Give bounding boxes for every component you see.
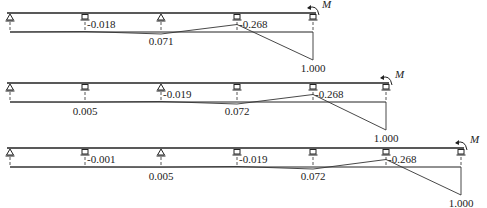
moment-value-label: 0.072 [301,170,326,182]
roller-support-icon [233,85,242,103]
moment-value-label: -0.268 [239,18,268,30]
roller-support-icon [457,150,466,168]
moment-label: M [469,133,480,145]
pin-support-icon [6,149,15,167]
pin-support-icon [157,149,166,167]
moment-value-label: -0.019 [239,153,268,165]
beam-4-span: 0.005-0.0190.072-0.2681.000M [6,68,406,144]
moment-distribution-diagrams: -0.0180.071-0.2681.000M0.005-0.0190.072-… [0,0,487,208]
moment-value-label: -0.019 [163,88,192,100]
pin-support-icon [6,14,15,32]
beam-3-span: -0.0180.071-0.2681.000M [6,0,333,74]
moment-value-label: 0.071 [149,35,174,47]
roller-support-icon [81,85,90,103]
moment-value-label: 1.000 [374,132,399,144]
roller-support-icon [309,15,318,33]
pin-support-icon [6,84,15,102]
moment-label: M [394,68,405,80]
moment-label: M [321,0,332,10]
roller-support-icon [382,85,391,103]
moment-value-label: 1.000 [301,62,326,74]
moment-value-label: 1.000 [449,197,474,208]
moment-value-label: 0.005 [73,105,98,117]
beam-5-span: -0.0010.005-0.0190.072-0.2681.000M [6,133,481,208]
moment-value-label: -0.268 [388,153,417,165]
roller-support-icon [309,150,318,168]
moment-value-label: -0.001 [87,153,115,165]
moment-value-label: 0.072 [225,105,250,117]
moment-value-label: 0.005 [149,170,174,182]
moment-value-label: -0.268 [315,88,344,100]
moment-value-label: -0.018 [87,18,116,30]
pin-support-icon [157,14,166,32]
